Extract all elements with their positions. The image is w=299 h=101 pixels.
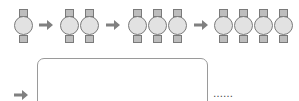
arrow-icon [194,20,208,30]
square-bottom [19,35,28,43]
arrow-icon [14,90,28,100]
square-bottom [219,35,228,43]
square-bottom [85,35,94,43]
square-bottom [173,35,182,43]
circle-unit [274,16,293,35]
square-bottom [259,35,268,43]
square-bottom [65,35,74,43]
circle-unit [168,16,187,35]
ellipsis: …… [213,88,233,99]
circle-unit [148,16,167,35]
circle-unit [128,16,147,35]
circle-unit [234,16,253,35]
arrow-icon [106,20,120,30]
square-bottom [279,35,288,43]
square-bottom [153,35,162,43]
square-bottom [239,35,248,43]
square-bottom [133,35,142,43]
circle-unit [254,16,273,35]
arrow-icon [39,20,53,30]
circle-unit [214,16,233,35]
empty-answer-box [37,58,208,101]
circle-unit [80,16,99,35]
circle-unit [14,16,33,35]
circle-unit [60,16,79,35]
